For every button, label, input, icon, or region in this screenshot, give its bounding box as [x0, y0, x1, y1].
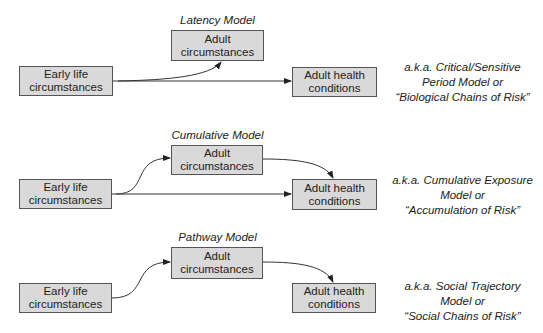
- cumulative-adult-health-box: Adult health conditions: [292, 179, 377, 210]
- pathway-model-title: Pathway Model: [171, 231, 264, 243]
- pathway-aka-text: a.k.a. Social Trajectory Model or “Socia…: [380, 279, 543, 324]
- latency-model-title: Latency Model: [171, 14, 264, 26]
- pathway-early-life-box: Early life circumstances: [19, 283, 112, 313]
- arrow-adult-to-health-cumulative: [263, 159, 333, 178]
- arrow-early-to-adult-pathway: [112, 262, 170, 298]
- arrow-early-to-adult-cumulative: [116, 158, 170, 194]
- cumulative-aka-text: a.k.a. Cumulative Exposure Model or “Acc…: [380, 173, 543, 218]
- pathway-adult-health-box: Adult health conditions: [292, 283, 376, 313]
- latency-adult-circumstances-box: Adult circumstances: [171, 30, 264, 61]
- cumulative-early-life-box: Early life circumstances: [19, 179, 112, 209]
- latency-adult-health-box: Adult health conditions: [292, 67, 377, 97]
- latency-aka-text: a.k.a. Critical/Sensitive Period Model o…: [380, 60, 543, 105]
- cumulative-model-title: Cumulative Model: [171, 129, 264, 141]
- latency-early-life-box: Early life circumstances: [19, 66, 113, 96]
- arrow-adult-to-health-pathway: [263, 262, 333, 282]
- arrow-early-to-adult-latency: [118, 62, 221, 81]
- cumulative-adult-circumstances-box: Adult circumstances: [171, 145, 263, 175]
- pathway-adult-circumstances-box: Adult circumstances: [171, 247, 263, 279]
